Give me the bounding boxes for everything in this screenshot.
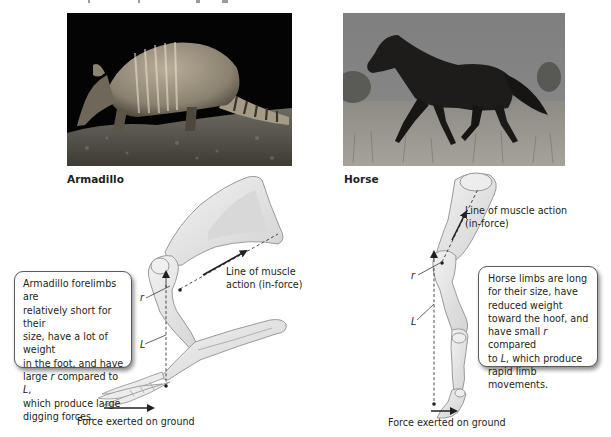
horse-callout: Horse limbs are long for their size, hav… — [478, 266, 598, 367]
horse-forearm — [433, 250, 468, 336]
horse-ground-force-label: Force exerted on ground — [388, 417, 506, 430]
armadillo-muscle-line-label: Line of muscle action (in-force) — [226, 266, 302, 291]
horse-L-leader — [417, 304, 434, 320]
armadillo-L-label: L — [140, 339, 145, 352]
horse-cannon — [451, 329, 468, 392]
armadillo-L-leader — [145, 335, 166, 344]
horse-muscle-line-label: Line of muscle action (in-force) — [465, 205, 567, 230]
armadillo-callout: Armadillo forelimbs are relatively short… — [14, 271, 132, 368]
armadillo-r-label: r — [140, 292, 144, 305]
horse-r-label: r — [411, 270, 415, 283]
armadillo-scapula — [165, 176, 283, 265]
horse-L-label: L — [411, 316, 416, 329]
horse-hoof — [437, 389, 466, 418]
